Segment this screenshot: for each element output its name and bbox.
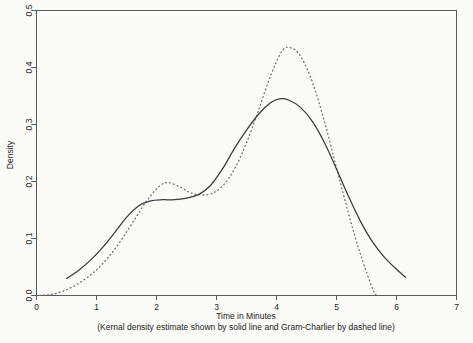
x-tick-label: 3	[214, 302, 219, 312]
y-tick-label: 0.2	[24, 175, 34, 187]
density-plot: 01234567 0.00.10.20.30.40.5 Density Time…	[0, 0, 473, 343]
kernel-density-curve	[67, 99, 406, 279]
y-tick-label: 0.3	[24, 118, 34, 130]
y-tick-label: 0.5	[24, 4, 34, 16]
y-tick-label: 0.0	[24, 289, 34, 301]
x-tick-label: 4	[274, 302, 279, 312]
gram-charlier-curve	[40, 47, 377, 295]
y-axis-title: Density	[5, 140, 15, 169]
x-tick-label: 0	[34, 302, 39, 312]
chart-page: 01234567 0.00.10.20.30.40.5 Density Time…	[0, 0, 473, 343]
x-axis-ticks: 01234567	[34, 296, 459, 312]
chart-caption: (Kernal density estimate shown by solid …	[97, 322, 395, 332]
plot-frame	[37, 11, 457, 296]
x-tick-label: 7	[454, 302, 459, 312]
x-tick-label: 5	[334, 302, 339, 312]
x-tick-label: 1	[94, 302, 99, 312]
y-tick-label: 0.1	[24, 232, 34, 244]
x-tick-label: 6	[394, 302, 399, 312]
x-tick-label: 2	[154, 302, 159, 312]
x-axis-title: Time in Minutes	[216, 311, 276, 321]
y-axis-ticks: 0.00.10.20.30.40.5	[24, 4, 37, 301]
y-tick-label: 0.4	[24, 61, 34, 73]
